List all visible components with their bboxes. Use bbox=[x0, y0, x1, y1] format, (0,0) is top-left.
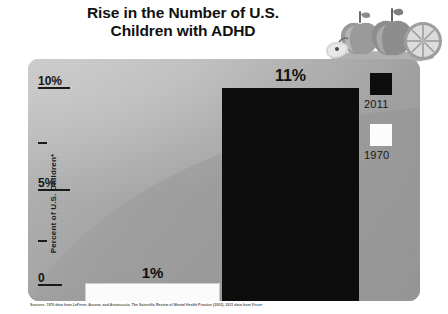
legend-swatch-1970 bbox=[370, 124, 392, 146]
chart-title-line-1: Rise in the Number of U.S. bbox=[48, 4, 318, 22]
source-note: Sources: 1970 data from LeFever, Arcona,… bbox=[30, 303, 430, 308]
plot-area: 1% 11% bbox=[28, 59, 420, 301]
adhd-bar-chart-figure: Rise in the Number of U.S. Children with… bbox=[0, 0, 448, 314]
bar-1970[interactable] bbox=[86, 284, 219, 301]
bar-value-1970: 1% bbox=[86, 264, 219, 281]
chart-title: Rise in the Number of U.S. Children with… bbox=[48, 4, 318, 40]
legend-label-1970: 1970 bbox=[364, 149, 420, 161]
legend-item-2011[interactable]: 2011 bbox=[364, 73, 420, 110]
chart-legend: 2011 1970 bbox=[364, 73, 420, 175]
bar-2011[interactable] bbox=[222, 88, 359, 301]
legend-label-2011: 2011 bbox=[364, 98, 420, 110]
legend-item-1970[interactable]: 1970 bbox=[364, 124, 420, 161]
bars-container: 1% 11% bbox=[28, 75, 420, 301]
legend-swatch-2011 bbox=[370, 73, 392, 95]
bar-value-2011: 11% bbox=[222, 67, 359, 85]
chart-plot-panel: Percent of U.S. Children* 10% 5% 0 bbox=[28, 59, 420, 301]
fruit-illustration bbox=[320, 2, 444, 64]
chart-title-line-2: Children with ADHD bbox=[48, 22, 318, 40]
